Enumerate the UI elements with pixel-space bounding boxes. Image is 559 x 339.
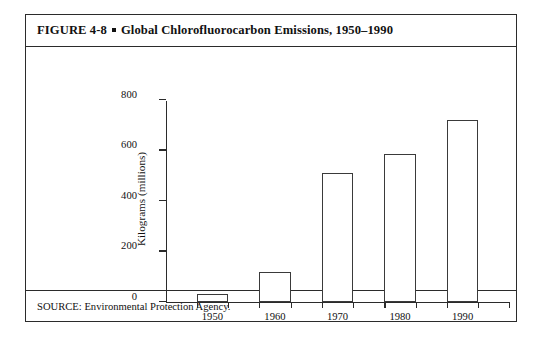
figure-title-text: Global Chlorofluorocarbon Emissions, 195… xyxy=(121,23,393,37)
figure-container: FIGURE 4-8Global Chlorofluorocarbon Emis… xyxy=(25,14,517,322)
x-axis-tick xyxy=(384,303,385,308)
y-axis-tick-label: 800 xyxy=(97,89,137,100)
x-axis-tick-label: 1990 xyxy=(433,312,493,323)
x-axis-tick-label: 1950 xyxy=(182,312,242,323)
x-axis-tick xyxy=(322,303,323,308)
x-axis-tick xyxy=(228,303,229,308)
figure-number: FIGURE 4-8 xyxy=(37,23,107,37)
y-axis-line xyxy=(166,101,167,303)
bar-1980 xyxy=(384,154,415,302)
figure-title-bar: FIGURE 4-8Global Chlorofluorocarbon Emis… xyxy=(26,15,516,47)
y-axis-tick xyxy=(159,200,166,201)
x-axis-line xyxy=(166,302,510,303)
x-axis-tick-label: 1970 xyxy=(308,312,368,323)
bar-1960 xyxy=(259,272,290,302)
x-axis-tick xyxy=(197,303,198,308)
x-axis-tick xyxy=(353,303,354,308)
x-axis-tick xyxy=(291,303,292,308)
y-axis-tick-label: 600 xyxy=(97,140,137,151)
bar-chart-plot: Kilograms (millions) 0200400600800 19501… xyxy=(140,95,510,303)
y-axis-tick-label: 0 xyxy=(97,291,137,302)
x-axis-tick xyxy=(478,303,479,308)
y-axis-tick xyxy=(159,99,166,100)
y-axis-tick xyxy=(159,301,166,302)
bar-1970 xyxy=(322,173,353,302)
x-axis-tick xyxy=(259,303,260,308)
y-axis-tick-label: 400 xyxy=(97,190,137,201)
x-axis-tick xyxy=(416,303,417,308)
y-axis-tick xyxy=(159,149,166,150)
bar-1950 xyxy=(197,294,228,302)
x-axis-tick xyxy=(447,303,448,308)
chart-area: Kilograms (millions) 0200400600800 19501… xyxy=(26,47,516,290)
y-axis-tick-label: 200 xyxy=(97,241,137,252)
x-axis-tick-label: 1980 xyxy=(370,312,430,323)
square-bullet-icon xyxy=(112,28,116,32)
x-axis-tick xyxy=(509,303,510,308)
figure-title: FIGURE 4-8Global Chlorofluorocarbon Emis… xyxy=(37,23,393,38)
x-axis-tick-label: 1960 xyxy=(245,312,305,323)
y-axis-tick xyxy=(159,250,166,251)
bar-1990 xyxy=(447,120,478,302)
